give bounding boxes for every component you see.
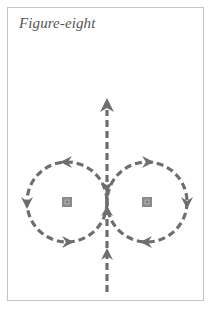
- left-cone-marker: [62, 197, 72, 207]
- arrow-right-icon: [142, 156, 154, 168]
- arrow-right-icon: [62, 236, 74, 248]
- right-cone-marker: [142, 197, 152, 207]
- figure-eight-diagram: [0, 0, 215, 310]
- arrow-up-icon: [100, 98, 114, 112]
- arrow-down-icon: [21, 197, 33, 209]
